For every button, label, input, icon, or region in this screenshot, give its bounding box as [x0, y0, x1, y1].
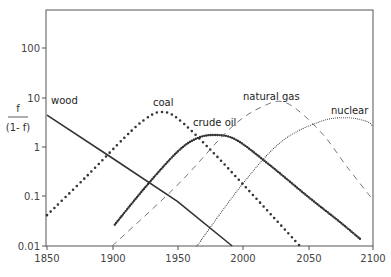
x-tick-1950: 1950 [165, 253, 190, 264]
y-label-denominator: (1- f) [6, 122, 31, 133]
y-axis-label: f (1- f) [6, 103, 31, 133]
y-tick-0-1: 0.1 [24, 191, 40, 202]
label-wood: wood [51, 95, 78, 106]
series-coal [47, 112, 300, 246]
series-natural-gas [112, 101, 373, 246]
x-tick-1900: 1900 [100, 253, 125, 264]
x-tick-1850: 1850 [34, 253, 59, 264]
y-tick-1: 1 [34, 142, 40, 153]
label-nuclear: nuclear [331, 105, 369, 116]
y-label-numerator: f [16, 103, 20, 114]
y-axis: 100 10 1 0.1 0.01 [18, 43, 46, 252]
x-tick-2100: 2100 [360, 253, 385, 264]
y-tick-10: 10 [27, 93, 40, 104]
label-crude-oil: crude oil [193, 117, 236, 128]
label-coal: coal [153, 97, 174, 108]
x-tick-2050: 2050 [296, 253, 321, 264]
label-natural-gas: natural gas [243, 91, 300, 102]
y-tick-0-01: 0.01 [18, 241, 40, 252]
x-tick-2000: 2000 [230, 253, 255, 264]
x-axis: 1850 1900 1950 2000 2050 2100 [34, 246, 385, 264]
y-tick-100: 100 [21, 43, 40, 54]
series-crude-oil [115, 135, 360, 239]
market-substitution-chart: 100 10 1 0.1 0.01 f (1- f) 1850 1900 195… [0, 0, 391, 277]
